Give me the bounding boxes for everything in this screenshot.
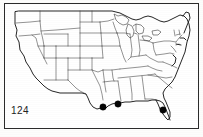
locality-dot-0 <box>100 104 106 110</box>
figure-number-label: 124 <box>11 106 29 116</box>
locality-dot-1 <box>115 101 121 107</box>
us-distribution-map <box>0 0 203 137</box>
locality-dot-2 <box>160 107 166 113</box>
distribution-map-figure: 124 <box>0 0 203 137</box>
